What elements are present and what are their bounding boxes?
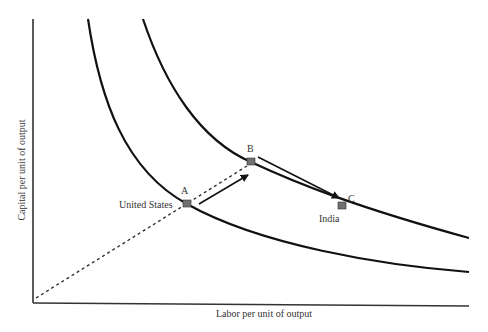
united-states-label: United States [119, 199, 173, 210]
point-b-label: B [247, 143, 254, 154]
outer-isoquant-curve [143, 19, 469, 238]
point-c-label: C [348, 193, 355, 204]
isoquant-diagram [0, 0, 488, 332]
arrow-b-to-c [258, 157, 339, 198]
inner-isoquant-curve [88, 19, 469, 272]
point-a-marker [183, 200, 191, 207]
x-axis [33, 303, 469, 306]
arrow-a-to-b [199, 175, 248, 204]
x-axis-label: Labor per unit of output [0, 308, 488, 319]
india-label: India [319, 213, 340, 224]
capital-labor-ray [36, 166, 247, 298]
y-axis-label: Capital per unit of output [16, 119, 27, 220]
point-b-marker [247, 158, 255, 165]
point-a-label: A [181, 185, 188, 196]
point-c-marker [338, 202, 346, 209]
